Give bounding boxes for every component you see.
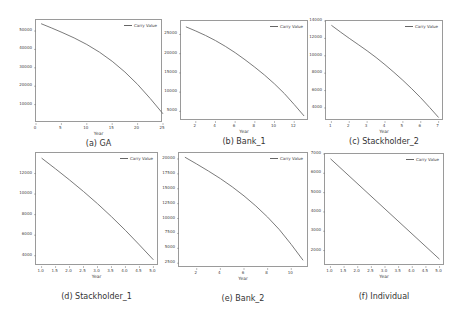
y-tick-label: 12000	[303, 34, 322, 39]
legend-label: Carry Value	[130, 156, 153, 161]
y-tick-label: 20000	[156, 155, 175, 160]
x-tick-label: 1.0	[324, 268, 334, 273]
y-tick-label: 6000	[303, 87, 322, 92]
legend-line-swatch	[406, 159, 414, 160]
x-tick-label: 7	[433, 123, 443, 128]
x-tick-label: 4	[214, 270, 224, 275]
subplot-caption-d: (d) Stackholder_1	[25, 292, 168, 301]
x-tick-label: 6	[238, 270, 248, 275]
x-tick-label: 5.0	[147, 268, 157, 273]
legend-label: Carry Value	[134, 23, 157, 28]
y-tick-label: 12000	[13, 170, 32, 175]
x-tick-label: 4	[209, 123, 219, 128]
y-tick-label: 10000	[303, 52, 322, 57]
y-tick-label: 8000	[13, 211, 32, 216]
legend: Carry Value	[268, 23, 305, 30]
subplot-caption-c: (c) Stackholder_2	[315, 137, 453, 146]
x-tick-label: 4.5	[420, 268, 430, 273]
x-axis-label: Year	[324, 274, 444, 279]
x-tick-label: 2.5	[365, 268, 375, 273]
x-tick-label: 3.5	[393, 268, 403, 273]
subplot-caption-b: (b) Bank_1	[170, 137, 318, 146]
x-axis-label: Year	[35, 274, 158, 279]
x-tick-label: 8	[249, 123, 259, 128]
y-tick-label: 17500	[156, 170, 175, 175]
x-tick-label: 3.5	[105, 268, 115, 273]
x-tick-label: 2	[343, 123, 353, 128]
y-tick-label: 12500	[156, 200, 175, 205]
y-tick-label: 15000	[156, 185, 175, 190]
y-tick-label: 6000	[13, 231, 32, 236]
x-tick-label: 1	[325, 123, 335, 128]
x-axis-label: Year	[180, 129, 308, 134]
legend-label: Carry Value	[280, 156, 303, 161]
x-tick-label: 10	[81, 125, 91, 130]
line-series-f	[325, 154, 445, 266]
x-tick-label: 3.0	[379, 268, 389, 273]
legend-line-swatch	[120, 158, 128, 159]
y-tick-label: 4000	[13, 252, 32, 257]
y-tick-label: 6000	[302, 169, 321, 174]
x-tick-label: 2.5	[78, 268, 88, 273]
y-tick-label: 20000	[13, 82, 32, 87]
line-series-b	[181, 21, 309, 121]
subplot-caption-e: (e) Bank_2	[168, 294, 318, 303]
plot-frame-e	[178, 152, 308, 267]
legend: Carry Value	[118, 155, 155, 162]
plot-frame-b	[180, 20, 308, 120]
line-series-a	[36, 20, 163, 123]
plot-frame-f	[324, 153, 444, 265]
y-tick-label: 25000	[158, 30, 177, 35]
legend-line-swatch	[270, 158, 278, 159]
x-tick-label: 25	[157, 125, 167, 130]
x-tick-label: 3	[361, 123, 371, 128]
y-tick-label: 10000	[13, 101, 32, 106]
x-tick-label: 2.0	[64, 268, 74, 273]
x-tick-label: 8	[262, 270, 272, 275]
y-tick-label: 7500	[156, 229, 175, 234]
x-tick-label: 5	[397, 123, 407, 128]
legend: Carry Value	[122, 22, 159, 29]
plot-frame-d	[35, 152, 158, 265]
y-tick-label: 40000	[13, 45, 32, 50]
legend-line-swatch	[405, 26, 413, 27]
x-tick-label: 5.0	[434, 268, 444, 273]
legend-label: Carry Value	[416, 157, 439, 162]
legend: Carry Value	[268, 155, 305, 162]
legend: Carry Value	[403, 23, 440, 30]
x-tick-label: 3.0	[92, 268, 102, 273]
x-tick-label: 1.5	[50, 268, 60, 273]
y-tick-label: 5000	[156, 244, 175, 249]
x-tick-label: 15	[106, 125, 116, 130]
y-tick-label: 14000	[303, 17, 322, 22]
x-tick-label: 20	[132, 125, 142, 130]
legend: Carry Value	[404, 156, 441, 163]
x-tick-label: 10	[269, 123, 279, 128]
legend-label: Carry Value	[415, 24, 438, 29]
x-tick-label: 10	[285, 270, 295, 275]
y-tick-label: 7000	[302, 150, 321, 155]
plot-frame-c	[325, 20, 443, 120]
legend-line-swatch	[270, 26, 278, 27]
x-tick-label: 6	[415, 123, 425, 128]
x-axis-label: Year	[325, 129, 443, 134]
subplot-caption-f: (f) Individual	[314, 292, 454, 301]
y-tick-label: 4000	[302, 208, 321, 213]
x-tick-label: 1.5	[338, 268, 348, 273]
y-tick-label: 8000	[303, 69, 322, 74]
x-tick-label: 5	[55, 125, 65, 130]
y-tick-label: 2000	[302, 247, 321, 252]
x-tick-label: 2	[191, 270, 201, 275]
line-series-c	[326, 21, 444, 121]
line-series-e	[179, 153, 309, 268]
x-tick-label: 12	[288, 123, 298, 128]
plot-frame-a	[35, 19, 162, 122]
y-tick-label: 10000	[156, 215, 175, 220]
x-tick-label: 0	[30, 125, 40, 130]
x-tick-label: 4.0	[119, 268, 129, 273]
subplot-caption-a: (a) GA	[25, 139, 172, 148]
y-tick-label: 5000	[302, 189, 321, 194]
x-tick-label: 4.5	[133, 268, 143, 273]
x-tick-label: 2.0	[352, 268, 362, 273]
y-tick-label: 3000	[302, 227, 321, 232]
